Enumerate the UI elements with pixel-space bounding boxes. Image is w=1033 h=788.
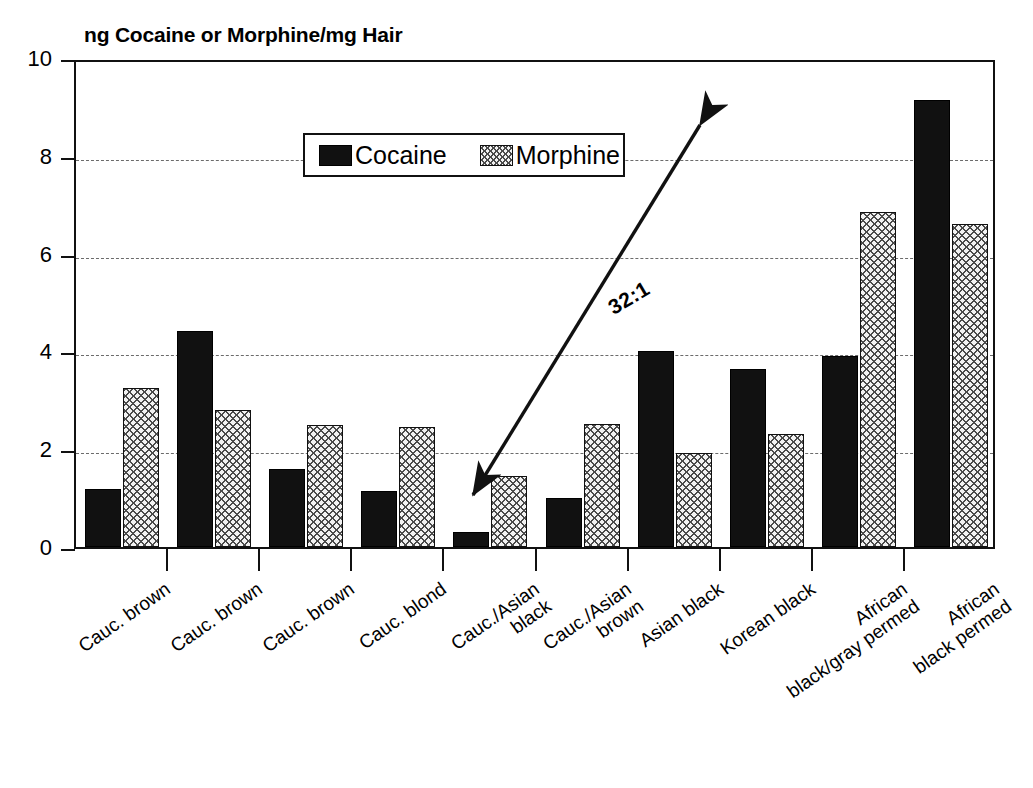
x-tick-mark [442,549,444,571]
y-tick-label: 8 [8,146,52,168]
y-tick-mark [61,353,75,355]
y-tick-label: 0 [8,537,52,559]
x-tick-mark [627,549,629,571]
chart-figure: ng Cocaine or Morphine/mg Hair 0246810 C… [0,0,1033,788]
x-tick-mark [903,549,905,571]
legend-swatch-morphine-icon [480,145,513,166]
y-tick-mark [61,158,75,160]
legend-swatch-cocaine-icon [319,145,352,166]
y-tick-label: 6 [8,244,52,266]
chart-legend: Cocaine Morphine [303,133,625,177]
legend-label-cocaine: Cocaine [355,143,447,168]
y-tick-mark [61,256,75,258]
legend-label-morphine: Morphine [516,143,620,168]
y-tick-mark [61,60,75,62]
x-tick-mark [535,549,537,571]
y-tick-mark [61,451,75,453]
x-tick-mark [166,549,168,571]
y-tick-label: 4 [8,341,52,363]
x-tick-mark [719,549,721,571]
x-tick-mark [811,549,813,571]
x-tick-mark [350,549,352,571]
y-tick-mark [61,549,75,551]
y-tick-label: 10 [8,48,52,70]
legend-entry-cocaine: Cocaine [319,143,447,168]
legend-entry-morphine: Morphine [480,143,620,168]
x-tick-mark [258,549,260,571]
y-tick-label: 2 [8,439,52,461]
